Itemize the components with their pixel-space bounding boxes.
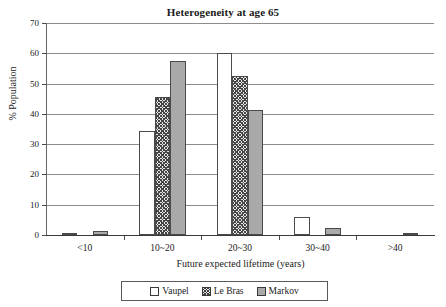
x-tick-label: 20~30: [201, 243, 279, 254]
legend-label: Le Bras: [214, 286, 244, 296]
y-axis-line: [46, 23, 47, 236]
legend-swatch-icon: [257, 287, 266, 296]
bar-vaupel-2: [217, 53, 233, 235]
y-tick-mark: [42, 114, 46, 115]
y-tick-label: 0: [2, 231, 39, 240]
bar-markov-3: [325, 228, 341, 235]
bar-le-bras-2: [232, 76, 248, 235]
y-tick-mark: [42, 205, 46, 206]
x-axis-label: Future expected lifetime (years): [46, 258, 435, 270]
legend-label: Markov: [269, 286, 299, 296]
x-tick-label: >40: [356, 243, 434, 254]
y-tick-mark: [42, 23, 46, 24]
plot-area: [46, 23, 434, 235]
x-tick-mark: [201, 236, 202, 240]
legend-item-le-bras[interactable]: Le Bras: [202, 286, 244, 296]
legend-item-markov[interactable]: Markov: [257, 286, 299, 296]
x-tick-mark: [356, 236, 357, 240]
y-tick-label: 70: [2, 19, 39, 28]
legend-item-vaupel[interactable]: Vaupel: [150, 286, 188, 296]
x-tick-label: 30~40: [279, 243, 357, 254]
y-axis-label: % Population: [7, 39, 18, 149]
x-tick-label: 10~20: [124, 243, 202, 254]
gridline: [46, 23, 434, 24]
y-tick-mark: [42, 174, 46, 175]
chart-legend: VaupelLe BrasMarkov: [121, 281, 328, 301]
legend-swatch-icon: [202, 287, 211, 296]
y-tick-label: 20: [2, 170, 39, 179]
bar-markov-1: [170, 61, 186, 235]
x-axis-line: [46, 235, 435, 236]
bar-le-bras-1: [155, 97, 171, 235]
bar-vaupel-3: [294, 217, 310, 235]
y-tick-label: 10: [2, 201, 39, 210]
chart-title: Heterogeneity at age 65: [0, 6, 446, 19]
y-tick-mark: [42, 84, 46, 85]
x-tick-label: <10: [46, 243, 124, 254]
bar-markov-2: [248, 110, 264, 235]
x-tick-mark: [279, 236, 280, 240]
legend-swatch-icon: [150, 287, 159, 296]
gridline: [46, 53, 434, 54]
legend-label: Vaupel: [162, 286, 188, 296]
bar-vaupel-1: [139, 131, 155, 235]
x-tick-mark: [124, 236, 125, 240]
chart-figure: Heterogeneity at age 65 010203040506070 …: [0, 0, 446, 307]
y-tick-mark: [42, 144, 46, 145]
y-tick-mark: [42, 235, 46, 236]
y-tick-mark: [42, 53, 46, 54]
